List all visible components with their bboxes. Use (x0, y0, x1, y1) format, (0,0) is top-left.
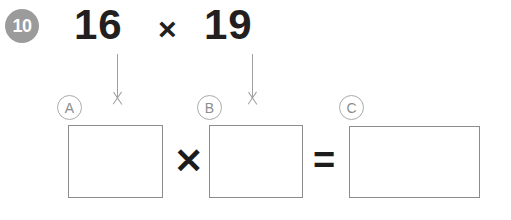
left-factor: 16 (74, 1, 123, 49)
answer-box-c[interactable] (349, 126, 480, 198)
label-circle-c: C (339, 95, 364, 120)
row-multiplication-operator-icon: ✕ (172, 143, 204, 178)
label-circle-a: A (57, 95, 82, 120)
arrow-head (110, 92, 125, 105)
answer-box-a[interactable] (68, 125, 163, 198)
multiplication-operator-icon: × (158, 5, 177, 53)
down-arrow-icon-a (107, 54, 129, 108)
down-arrow-icon-b (242, 54, 264, 108)
label-circle-b: B (197, 95, 222, 120)
problem-expression: 16 × 19 (72, 1, 282, 49)
worksheet-question: 10 16 × 19 A B C ✕ = (0, 0, 511, 220)
row-equals-operator-icon: = (306, 141, 342, 179)
right-factor: 19 (204, 1, 253, 49)
arrow-head (245, 92, 260, 105)
answer-box-b[interactable] (209, 125, 303, 198)
question-number-badge: 10 (5, 9, 39, 43)
